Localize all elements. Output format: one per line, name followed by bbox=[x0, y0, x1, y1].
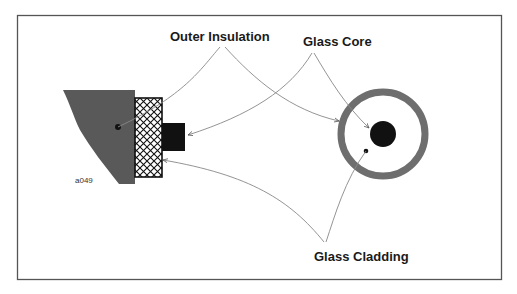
label-outer-insulation: Outer Insulation bbox=[170, 29, 270, 44]
diagram-frame bbox=[18, 16, 502, 280]
figure-id: a049 bbox=[75, 176, 93, 185]
leader-outer-insulation-to-ring bbox=[225, 47, 339, 121]
leader-glass-cladding-to-insulation bbox=[163, 160, 324, 242]
label-glass-core: Glass Core bbox=[303, 34, 372, 49]
leader-glass-core-to-stub bbox=[188, 53, 312, 135]
fiber-optic-diagram bbox=[0, 0, 517, 294]
outer-insulation-layer bbox=[135, 98, 162, 177]
label-glass-cladding: Glass Cladding bbox=[314, 249, 409, 264]
cable-body bbox=[63, 90, 135, 184]
glass-core-stub bbox=[162, 123, 185, 151]
glass-core-circle bbox=[370, 121, 396, 147]
